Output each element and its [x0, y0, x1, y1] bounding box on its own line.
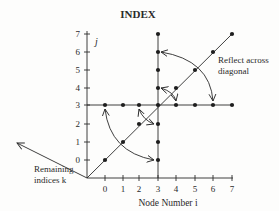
y-tick-5: 5 [76, 65, 81, 75]
y-tick-1: 1 [76, 137, 81, 147]
x-tick-0: 0 [103, 184, 108, 194]
x-tick-1: 1 [121, 184, 126, 194]
x-tick-6: 6 [211, 184, 216, 194]
y-tick-7: 7 [76, 29, 81, 39]
y-tick-0: 0 [76, 155, 81, 165]
y-tick-3: 3 [76, 100, 81, 110]
x-tick-7: 7 [230, 184, 235, 194]
x-axis-label: Node Number i [138, 198, 197, 208]
remaining-label-line2: indices k [34, 175, 67, 185]
index-diagram: INDEX 0 1 2 3 4 5 6 7 j 0 1 2 3 [0, 0, 279, 211]
reflect-label-line1: Reflect across [218, 55, 269, 65]
y-tick-labels: 0 1 2 3 4 5 6 7 [76, 29, 81, 165]
y-tick-4: 4 [76, 83, 81, 93]
x-axis [87, 175, 233, 181]
y-tick-2: 2 [76, 119, 81, 129]
y-axis-label: j [93, 36, 98, 47]
reflect-arrow-2 [139, 109, 154, 124]
x-tick-2: 2 [137, 184, 142, 194]
x-tick-5: 5 [193, 184, 198, 194]
x-tick-3: 3 [156, 184, 161, 194]
y-axis [84, 31, 90, 178]
y-tick-6: 6 [76, 47, 81, 57]
x-tick-4: 4 [174, 184, 179, 194]
remaining-label-line1: Remaining [34, 164, 74, 174]
reflect-label-line2: diagonal [218, 66, 249, 76]
diagram-title: INDEX [120, 8, 156, 20]
x-tick-labels: 0 1 2 3 4 5 6 7 [103, 184, 235, 194]
reflect-arrow-6 [161, 52, 213, 101]
reflect-arrow-4 [161, 88, 176, 101]
